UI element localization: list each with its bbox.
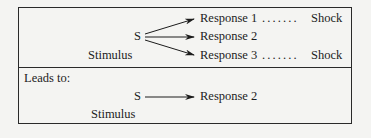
arrows (0, 0, 371, 138)
arrow-to-response-1-icon (145, 19, 194, 34)
arrow-to-response-3-icon (145, 40, 194, 55)
